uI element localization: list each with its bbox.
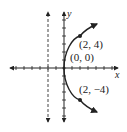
x-axis-label: x bbox=[114, 69, 120, 80]
origin-marker bbox=[63, 67, 66, 70]
point-bottom-marker bbox=[78, 98, 82, 102]
point-top-label: (2, 4) bbox=[79, 38, 103, 51]
y-axis-label: y bbox=[66, 8, 72, 19]
parabola-graph: x y (2, 4) (0, 0) (2, −4) bbox=[0, 0, 127, 132]
point-bottom-label: (2, −4) bbox=[79, 83, 109, 96]
origin-label: (0, 0) bbox=[70, 51, 94, 64]
